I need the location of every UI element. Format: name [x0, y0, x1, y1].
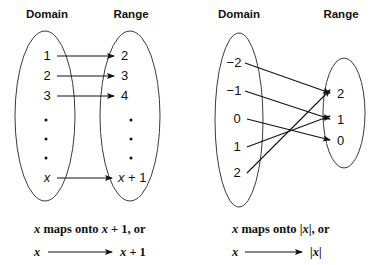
left-domain-header: Domain — [26, 8, 68, 20]
right-range-item-2: 2 — [337, 86, 344, 101]
right-arrow-neg2-to-2 — [245, 63, 330, 93]
right-caption-line-2-to: |x| — [310, 245, 322, 259]
right-arrow-neg1-to-1 — [245, 91, 330, 119]
mapping-diagrams-figure: Domain Range 1 2 3 x 2 3 4 x + 1 — [0, 0, 373, 265]
left-range-ellipsis-dot-1 — [130, 119, 133, 122]
left-range-item-2: 3 — [121, 68, 128, 83]
left-domain-item-2: 2 — [43, 68, 50, 83]
right-domain-item-neg1: −1 — [227, 83, 242, 98]
left-domain-ellipsis-dot-3 — [45, 157, 48, 160]
left-range-ellipsis-dot-3 — [130, 157, 133, 160]
left-domain-item-3: 3 — [43, 88, 50, 103]
right-arrow-2-to-2 — [247, 90, 330, 173]
right-domain-header: Domain — [218, 8, 260, 20]
right-caption-line-2-from: x — [231, 245, 238, 259]
right-range-item-0: 0 — [337, 133, 344, 148]
right-range-header: Range — [323, 8, 358, 20]
left-range-item-x-plus-1: x + 1 — [117, 170, 147, 185]
right-caption: x maps onto |x|, or x |x| — [231, 222, 330, 259]
right-domain-item-1: 1 — [233, 139, 240, 154]
right-caption-line-1: x maps onto |x|, or — [231, 222, 330, 236]
right-range-item-1: 1 — [337, 112, 344, 127]
right-arrow-0-to-0 — [247, 119, 330, 140]
left-range-item-3: 4 — [121, 88, 128, 103]
left-domain-item-1: 1 — [43, 48, 50, 63]
diagram-canvas: Domain Range 1 2 3 x 2 3 4 x + 1 — [0, 0, 373, 265]
left-domain-ellipsis-dot-1 — [45, 119, 48, 122]
left-caption: x maps onto x + 1, or x x + 1 — [33, 222, 146, 259]
left-mapping-diagram: Domain Range 1 2 3 x 2 3 4 x + 1 — [15, 8, 160, 201]
left-caption-line-2-from: x — [33, 245, 40, 259]
left-caption-line-2-to: x + 1 — [119, 245, 146, 259]
right-domain-item-0: 0 — [233, 111, 240, 126]
right-domain-item-neg2: −2 — [227, 55, 242, 70]
left-domain-item-x: x — [43, 170, 51, 185]
right-mapping-diagram: Domain Range −2 −1 0 1 2 2 1 0 — [215, 8, 365, 207]
left-range-header: Range — [113, 8, 148, 20]
left-caption-line-1: x maps onto x + 1, or — [33, 222, 146, 236]
left-range-item-1: 2 — [121, 48, 128, 63]
left-domain-ellipsis-dot-2 — [45, 138, 48, 141]
right-domain-item-2: 2 — [233, 165, 240, 180]
left-range-ellipsis-dot-2 — [130, 138, 133, 141]
